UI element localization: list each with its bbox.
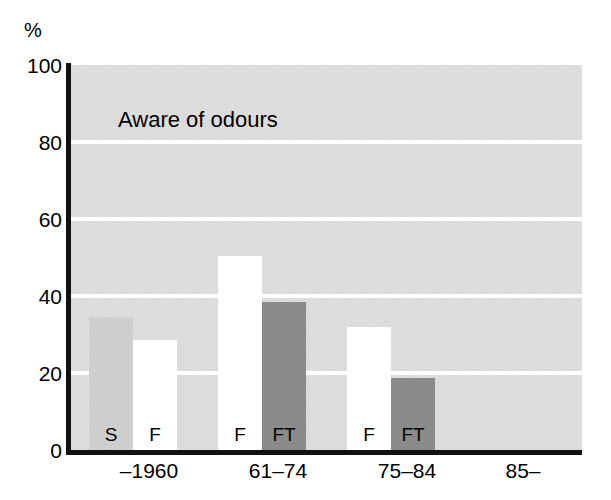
bar-label-6174-f: F	[218, 425, 262, 444]
bar-label-7584-ft: FT	[391, 425, 435, 444]
x-tick-85: 85–	[463, 459, 583, 483]
x-tick-7584: 75–84	[347, 459, 467, 483]
bar-6174-f[interactable]: F	[218, 256, 262, 450]
y-axis-unit-label: %	[24, 20, 42, 40]
bar-label-6174-ft: FT	[262, 425, 306, 444]
chart-root: % Aware of odours S F F FT	[0, 0, 611, 500]
bar-1960-f[interactable]: F	[133, 340, 177, 450]
y-tick-40: 40	[0, 286, 62, 307]
y-tick-80: 80	[0, 132, 62, 153]
plot-area: Aware of odours S F F FT F FT	[71, 65, 582, 450]
bar-6174-ft[interactable]: FT	[262, 302, 306, 450]
y-tick-0: 0	[0, 440, 62, 461]
x-tick-6174: 61–74	[218, 459, 338, 483]
y-tick-60: 60	[0, 209, 62, 230]
x-axis-line	[66, 450, 582, 455]
chart-title: Aware of odours	[118, 108, 278, 132]
bar-label-7584-f: F	[347, 425, 391, 444]
bar-7584-ft[interactable]: FT	[391, 378, 435, 450]
bar-7584-f[interactable]: F	[347, 327, 391, 450]
bar-label-1960-f: F	[133, 425, 177, 444]
x-tick-1960: –1960	[89, 459, 209, 483]
bar-1960-s[interactable]: S	[89, 317, 133, 450]
y-tick-100: 100	[0, 55, 62, 76]
bar-label-1960-s: S	[89, 425, 133, 444]
y-tick-20: 20	[0, 363, 62, 384]
